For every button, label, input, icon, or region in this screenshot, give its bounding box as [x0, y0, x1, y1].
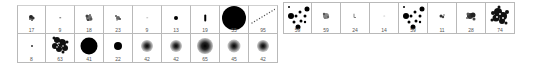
brush-size-label: 9: [133, 27, 161, 33]
brush-tile[interactable]: 18: [75, 5, 104, 34]
brush-size-label: 41: [75, 56, 103, 62]
scatter-brush-icon: [488, 4, 512, 28]
brush-tile[interactable]: 42: [133, 34, 162, 63]
brush-tile[interactable]: 17: [17, 5, 46, 34]
glyph-brush-icon: [353, 14, 357, 19]
brush-size-label: 11: [428, 27, 456, 33]
hard-round-brush-icon: [174, 16, 178, 20]
dot-cluster-brush-icon: [400, 4, 426, 30]
brush-size-label: 55: [220, 27, 248, 33]
brush-size-label: 9: [46, 27, 74, 33]
brush-tile[interactable]: 22: [104, 34, 133, 63]
soft-round-brush-icon: [228, 40, 241, 53]
scatter-brush-icon: [27, 13, 37, 23]
scatter-brush-icon: [438, 13, 446, 19]
brush-tile[interactable]: 55: [220, 5, 249, 34]
brush-tile[interactable]: 42: [162, 34, 191, 63]
brush-tile[interactable]: 11: [428, 2, 457, 34]
brush-size-label: 18: [75, 27, 103, 33]
brush-tile[interactable]: 23: [104, 5, 133, 34]
dotted-line-brush-icon: [251, 8, 275, 24]
brush-preset-grid: 17 9 18 23 9 13 19 55: [17, 5, 278, 63]
brush-row-2: 8 63 41 22 42 42 65 45: [17, 34, 278, 63]
brush-tile[interactable]: 59: [283, 2, 312, 34]
brush-tile[interactable]: 8: [17, 34, 46, 63]
brush-size-label: 42: [249, 56, 277, 62]
round-brush-icon: [59, 17, 61, 19]
brush-size-label: 42: [133, 56, 161, 62]
soft-round-brush-icon: [141, 40, 153, 52]
hard-round-brush-icon: [114, 42, 122, 50]
brush-size-label: 95: [249, 27, 277, 33]
brush-size-label: 74: [486, 27, 514, 33]
brush-size-label: 13: [162, 27, 190, 33]
soft-round-brush-icon: [170, 40, 182, 52]
brush-preset-strip: 59 59 24 14 59 11 28 74: [283, 2, 515, 34]
brush-size-label: 22: [104, 56, 132, 62]
scatter-brush-icon: [320, 10, 332, 22]
brush-size-label: 14: [370, 27, 398, 33]
brush-tile[interactable]: 95: [249, 5, 278, 34]
dot-cluster-brush-icon: [285, 4, 311, 30]
soft-round-brush-icon: [257, 40, 269, 52]
brush-tile[interactable]: 24: [341, 2, 370, 34]
brush-tile[interactable]: 45: [220, 34, 249, 63]
brush-size-label: 65: [191, 56, 219, 62]
brush-tile[interactable]: 59: [399, 2, 428, 34]
brush-size-label: 59: [312, 27, 340, 33]
brush-tile[interactable]: 42: [249, 34, 278, 63]
hard-round-brush-icon: [81, 38, 98, 55]
brush-tile[interactable]: 41: [75, 34, 104, 63]
brush-size-label: 28: [457, 27, 485, 33]
brush-size-label: 63: [46, 56, 74, 62]
brush-size-label: 59: [399, 27, 427, 33]
brush-size-label: 59: [284, 27, 311, 33]
brush-size-label: 8: [18, 56, 45, 62]
brush-size-label: 23: [104, 27, 132, 33]
brush-size-label: 42: [162, 56, 190, 62]
faint-brush-icon: [383, 16, 385, 17]
brush-tile[interactable]: 65: [191, 34, 220, 63]
brush-row-1: 17 9 18 23 9 13 19 55: [17, 5, 278, 34]
vertical-bar-brush-icon: [204, 14, 206, 21]
brush-size-label: 19: [191, 27, 219, 33]
round-brush-icon: [146, 17, 148, 19]
brush-tile[interactable]: 19: [191, 5, 220, 34]
brush-tile[interactable]: 9: [133, 5, 162, 34]
scatter-brush-icon: [83, 12, 95, 24]
brush-tile[interactable]: 63: [46, 34, 75, 63]
brush-size-label: 24: [341, 27, 369, 33]
brush-size-label: 17: [18, 27, 45, 33]
brush-tile[interactable]: 9: [46, 5, 75, 34]
soft-round-brush-icon: [197, 38, 213, 54]
scatter-brush-icon: [49, 34, 71, 56]
brush-tile[interactable]: 13: [162, 5, 191, 34]
brush-tile[interactable]: 59: [312, 2, 341, 34]
brush-tile[interactable]: 28: [457, 2, 486, 34]
brush-tile[interactable]: 14: [370, 2, 399, 34]
brush-tile[interactable]: 74: [486, 2, 515, 34]
round-brush-icon: [31, 45, 33, 47]
scatter-brush-icon: [464, 10, 478, 22]
brush-size-label: 45: [220, 56, 248, 62]
scatter-brush-icon: [113, 13, 123, 23]
